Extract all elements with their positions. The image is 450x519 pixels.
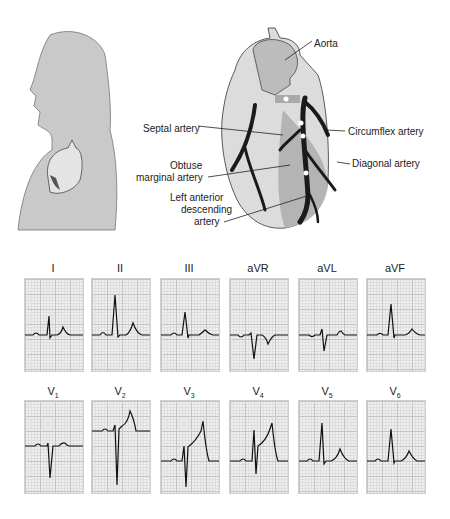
- lead-title-II: II: [90, 262, 150, 274]
- label-lad-1: Left anterior: [170, 192, 223, 203]
- lead-title-I: I: [23, 262, 83, 274]
- lead-title-V2-sub: 2: [122, 392, 126, 399]
- label-lad-3: artery: [194, 216, 220, 227]
- lead-title-V5: V5: [297, 385, 357, 399]
- lead-title-V1-sub: 1: [55, 392, 59, 399]
- lead-title-V2: V2: [90, 385, 150, 399]
- label-obtuse-marginal-1: Obtuse: [170, 160, 202, 171]
- lead-title-V5-base: V: [321, 385, 328, 397]
- lead-title-V6: V6: [365, 385, 425, 399]
- lead-title-V3: V3: [159, 385, 219, 399]
- ecg-lead-V6: [366, 400, 426, 494]
- ecg-lead-III: [160, 278, 220, 372]
- lead-title-V3-base: V: [183, 385, 190, 397]
- lead-title-V3-sub: 3: [191, 392, 195, 399]
- lead-title-III: III: [159, 262, 219, 274]
- lead-title-V6-sub: 6: [397, 392, 401, 399]
- label-aorta: Aorta: [314, 38, 338, 49]
- lead-title-V1-base: V: [47, 385, 54, 397]
- lead-title-V4-base: V: [252, 385, 259, 397]
- label-obtuse-marginal-2: marginal artery: [136, 172, 203, 183]
- ecg-lead-V2: [91, 400, 151, 494]
- ecg-lead-II: [91, 278, 151, 372]
- label-lad-2: descending: [181, 204, 232, 215]
- lead-title-V1: V1: [23, 385, 83, 399]
- label-septal-artery: Septal artery: [143, 123, 200, 134]
- lead-title-V6-base: V: [389, 385, 396, 397]
- lead-title-aVL: aVL: [297, 262, 357, 274]
- lead-title-V5-sub: 5: [329, 392, 333, 399]
- lead-title-V4-sub: 4: [260, 392, 264, 399]
- lead-title-aVR: aVR: [228, 262, 288, 274]
- body-silhouette: [18, 32, 117, 230]
- ecg-lead-V1: [24, 400, 84, 494]
- label-circumflex-artery: Circumflex artery: [348, 126, 424, 137]
- ecg-lead-V5: [298, 400, 358, 494]
- label-diagonal-artery: Diagonal artery: [352, 158, 420, 169]
- ecg-lead-V3: [160, 400, 220, 494]
- lead-title-V4: V4: [228, 385, 288, 399]
- ecg-lead-V4: [229, 400, 289, 494]
- lead-title-aVF: aVF: [365, 262, 425, 274]
- lead-title-V2-base: V: [114, 385, 121, 397]
- ecg-lead-aVL: [298, 278, 358, 372]
- ecg-lead-aVR: [229, 278, 289, 372]
- ecg-lead-aVF: [366, 278, 426, 372]
- ecg-lead-I: [24, 278, 84, 372]
